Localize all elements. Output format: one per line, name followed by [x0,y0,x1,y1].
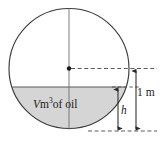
centre-point-dot [67,66,71,70]
volume-suffix-text: of oil [53,98,78,110]
depth-label: h [121,105,127,117]
radius-measure-label: 1 m [137,87,155,99]
volume-variable: V [33,98,40,110]
diagram-canvas [0,0,163,143]
volume-unit: m [40,98,49,110]
oil-volume-label: Vm3of oil [33,99,77,111]
oil-tank-diagram: Vm3of oil h 1 m [0,0,163,143]
